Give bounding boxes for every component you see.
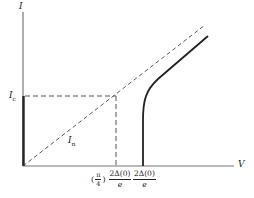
y-axis-label: I <box>19 2 23 11</box>
critical-current-label: Ic <box>9 91 16 102</box>
normal-resistance-dashed-line <box>23 25 205 166</box>
x-axis-label: V <box>238 160 245 169</box>
normal-current-label: In <box>68 136 75 147</box>
quasiparticle-branch <box>143 36 208 166</box>
tick-label-gap: 2Δ(0) e <box>133 170 156 188</box>
tick-label-ab: ( π4 ) 2Δ(0)e <box>91 170 131 188</box>
